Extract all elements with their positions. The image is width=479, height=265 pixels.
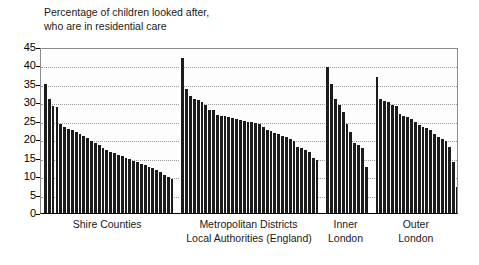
x-group-label-line: Outer xyxy=(374,218,458,232)
bar-group xyxy=(325,49,367,213)
x-group-label: OuterLondon xyxy=(374,218,458,245)
y-tick-label: 25 xyxy=(2,116,36,127)
bar-group xyxy=(375,49,458,213)
y-tick-label: 10 xyxy=(2,171,36,182)
x-group-label-line: Inner xyxy=(324,218,366,232)
y-tick-label: 5 xyxy=(2,190,36,201)
y-tick-label: 40 xyxy=(2,60,36,71)
bar xyxy=(170,179,174,213)
bar xyxy=(315,160,319,213)
x-group-label-line: Shire Counties xyxy=(42,218,172,232)
bar-group xyxy=(180,49,318,213)
chart-figure: Percentage of children looked after, who… xyxy=(0,0,479,265)
chart-title: Percentage of children looked after, who… xyxy=(44,6,444,33)
x-group-label: Metropolitan Districts xyxy=(179,218,317,232)
x-group-label: InnerLondon xyxy=(324,218,366,245)
chart-title-line-2: who are in residential care xyxy=(44,20,444,34)
y-tick-label: 45 xyxy=(2,42,36,53)
bar xyxy=(455,187,458,213)
x-group-label-line: London xyxy=(374,232,458,246)
x-group-label-line: Metropolitan Districts xyxy=(179,218,317,232)
x-group-label: Shire Counties xyxy=(42,218,172,232)
x-axis-labels: Local Authorities (England) Shire Counti… xyxy=(40,218,458,262)
bar xyxy=(364,167,368,213)
y-tick-mark xyxy=(36,214,40,215)
y-tick-label: 0 xyxy=(2,208,36,219)
bars-layer xyxy=(41,49,457,213)
y-tick-label: 15 xyxy=(2,153,36,164)
y-tick-label: 20 xyxy=(2,134,36,145)
y-tick-label: 35 xyxy=(2,79,36,90)
x-group-label-line: London xyxy=(324,232,366,246)
chart-title-line-1: Percentage of children looked after, xyxy=(44,6,444,20)
plot-area xyxy=(40,48,458,214)
y-axis: 051015202530354045 xyxy=(0,48,36,214)
bar-group xyxy=(43,49,173,213)
y-tick-label: 30 xyxy=(2,97,36,108)
